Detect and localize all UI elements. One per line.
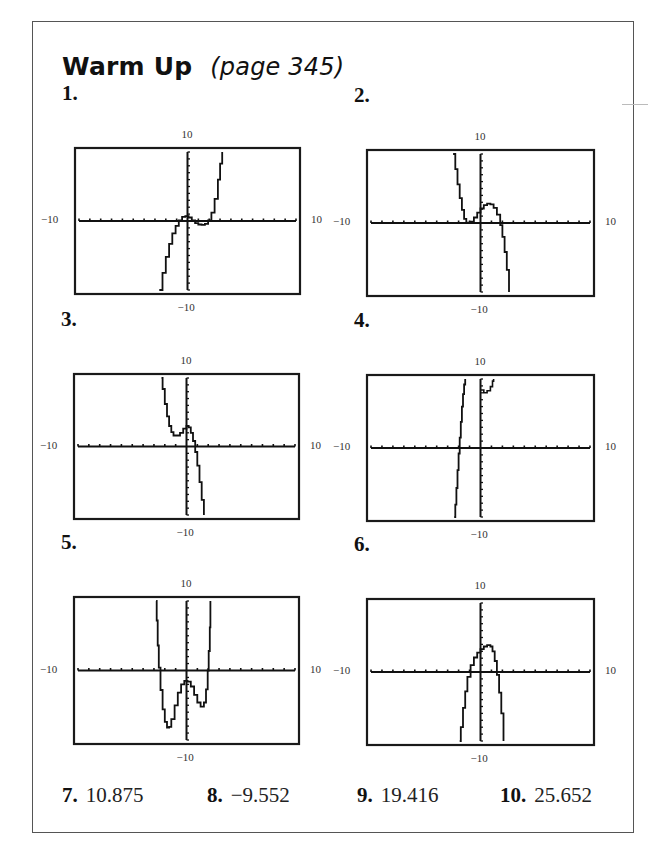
answer-number: 9.: [357, 783, 373, 807]
answer-value: −9.552: [231, 783, 290, 807]
xmax-label: 10: [310, 663, 321, 675]
answer-8: 8.−9.552: [207, 783, 290, 808]
ymax-label: 10: [475, 355, 486, 367]
problem-number-5: 5.: [61, 530, 77, 555]
graph-4: [366, 374, 595, 522]
xmin-label: −10: [40, 439, 57, 451]
graph-6: [366, 598, 595, 746]
graph-2: [366, 149, 595, 297]
answer-number: 10.: [500, 783, 526, 807]
section-title: Warm Up(page 345): [62, 52, 344, 81]
page-reference: (page 345): [210, 53, 344, 81]
answer-7: 7.10.875: [62, 783, 144, 808]
ymax-label: 10: [181, 354, 192, 366]
answer-value: 19.416: [381, 783, 439, 807]
ymin-label: −10: [471, 303, 488, 315]
ymax-label: 10: [475, 130, 486, 142]
xmin-label: −10: [40, 663, 57, 675]
xmin-label: −10: [41, 213, 58, 225]
xmax-label: 10: [605, 215, 616, 227]
ymax-label: 10: [181, 577, 192, 589]
xmax-label: 10: [311, 213, 322, 225]
xmin-label: −10: [333, 440, 350, 452]
ymin-label: −10: [177, 751, 194, 763]
xmin-label: −10: [333, 215, 350, 227]
ymin-label: −10: [178, 301, 195, 313]
answer-10: 10.25.652: [500, 783, 592, 808]
xmax-label: 10: [605, 440, 616, 452]
problem-number-2: 2.: [354, 83, 370, 108]
answer-9: 9.19.416: [357, 783, 439, 808]
answer-number: 7.: [62, 783, 78, 807]
ymin-label: −10: [471, 528, 488, 540]
xmax-label: 10: [605, 664, 616, 676]
graph-5: [73, 596, 300, 745]
answer-value: 10.875: [86, 783, 144, 807]
problem-number-6: 6.: [354, 532, 370, 557]
ymin-label: −10: [471, 752, 488, 764]
graph-3: [73, 373, 300, 520]
margin-mark: [622, 104, 648, 105]
answer-number: 8.: [207, 783, 223, 807]
xmax-label: 10: [310, 439, 321, 451]
problem-number-4: 4.: [354, 308, 370, 333]
problem-number-1: 1.: [62, 81, 78, 106]
title-text: Warm Up: [62, 52, 192, 81]
ymax-label: 10: [475, 579, 486, 591]
graph-1: [74, 147, 301, 295]
problem-number-3: 3.: [61, 307, 77, 332]
ymin-label: −10: [177, 526, 194, 538]
answers-row: 7.10.875 8.−9.552 9.19.416 10.25.652: [62, 783, 622, 813]
answer-value: 25.652: [534, 783, 592, 807]
ymax-label: 10: [182, 128, 193, 140]
xmin-label: −10: [333, 664, 350, 676]
